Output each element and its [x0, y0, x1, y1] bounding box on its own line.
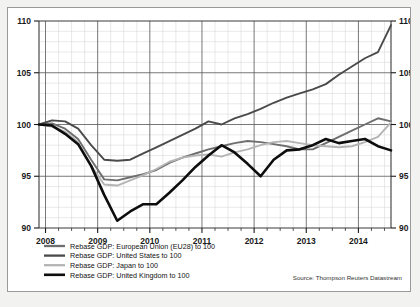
x-tick-label: 2014: [349, 236, 368, 246]
y-axis-labels-left: 9095100105110: [17, 16, 31, 233]
chart-legend: Rebase GDP: European Union (EU28) to 100…: [44, 242, 215, 280]
x-tick-label: 2012: [245, 236, 264, 246]
y-tick-label-left: 100: [17, 120, 31, 130]
y-tick-label-right: 110: [399, 16, 410, 26]
y-tick-label-right: 95: [399, 171, 409, 181]
legend-item-japan-label: Rebase GDP: Japan to 100: [70, 261, 158, 270]
y-tick-label-right: 90: [399, 223, 409, 233]
y-tick-label-left: 90: [22, 223, 32, 233]
y-tick-label-right: 100: [399, 120, 410, 130]
legend-item-eu28-label: Rebase GDP: European Union (EU28) to 100: [70, 242, 215, 251]
y-tick-label-left: 110: [17, 16, 31, 26]
figure-canvas: 9095100105110 9095100105110 200820092010…: [0, 0, 420, 307]
x-tick-label: 2013: [297, 236, 316, 246]
x-axis-ticks: [46, 228, 385, 233]
x-tick-label: 2008: [36, 236, 55, 246]
y-axis-ticks-right: [391, 21, 396, 228]
chart-card: 9095100105110 9095100105110 200820092010…: [7, 7, 411, 292]
source-attribution: Source: Thompson Reuters Datastream: [293, 274, 402, 281]
legend-item-united-states-label: Rebase GDP: United States to 100: [70, 251, 181, 260]
y-tick-label-left: 105: [17, 68, 31, 78]
y-tick-label-left: 95: [22, 171, 32, 181]
gdp-rebase-line-chart: 9095100105110 9095100105110 200820092010…: [8, 8, 410, 291]
y-axis-labels-right: 9095100105110: [399, 16, 410, 233]
legend-item-united-kingdom-label: Rebase GDP: United Kingdom to 100: [70, 271, 189, 280]
y-tick-label-right: 105: [399, 68, 410, 78]
